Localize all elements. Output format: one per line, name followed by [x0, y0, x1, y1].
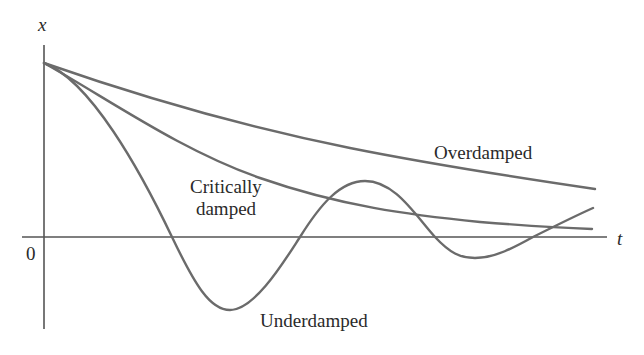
overdamped-label: Overdamped — [434, 142, 532, 164]
critically-damped-label: Critically damped — [180, 176, 272, 220]
damping-diagram — [0, 0, 644, 355]
y-axis-label: x — [38, 14, 46, 36]
origin-label: 0 — [26, 243, 36, 265]
critically-damped-label-line2: damped — [180, 198, 272, 220]
critically-damped-label-line1: Critically — [180, 176, 272, 198]
overdamped-curve — [44, 63, 595, 189]
underdamped-label: Underdamped — [260, 310, 368, 332]
x-axis-label: t — [617, 228, 622, 250]
underdamped-curve — [44, 63, 593, 310]
